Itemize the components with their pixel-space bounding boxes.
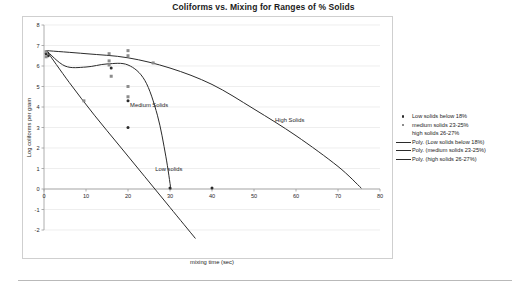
svg-text:-1: -1 <box>35 207 40 213</box>
svg-text:30: 30 <box>167 193 173 199</box>
legend-item: Poly. (medium solids 23-25%) <box>395 146 523 155</box>
svg-text:50: 50 <box>251 193 257 199</box>
legend-item-label: Low solids below 18% <box>411 112 467 121</box>
x-tick-labels: 01020304050607080 <box>42 189 383 199</box>
legend-marker-circle-icon <box>395 115 411 118</box>
svg-text:8: 8 <box>36 22 39 28</box>
legend-item: high solids 26-27% <box>395 129 523 138</box>
svg-text:-2: -2 <box>35 227 40 233</box>
trendline-group <box>47 51 362 239</box>
chart-annotation: Medium Solids <box>130 102 168 108</box>
y-axis-label: Log coliforms per gram <box>26 98 32 157</box>
svg-text:0: 0 <box>36 186 39 192</box>
gridlines <box>44 25 380 230</box>
svg-text:Log coliforms per gram: Log coliforms per gram <box>26 98 32 157</box>
svg-text:40: 40 <box>209 193 215 199</box>
svg-text:3: 3 <box>36 125 39 131</box>
svg-text:80: 80 <box>377 193 383 199</box>
chart-legend: Low solids below 18%medium solids 23-25%… <box>395 112 523 164</box>
svg-text:20: 20 <box>125 193 131 199</box>
svg-text:7: 7 <box>36 43 39 49</box>
chart-annotation: Low solids <box>155 166 182 172</box>
legend-item-label: high solids 26-27% <box>411 129 459 138</box>
svg-text:2: 2 <box>36 145 39 151</box>
legend-trendline-icon <box>395 159 411 160</box>
y-tick-labels: 876543210-1-2 <box>35 22 44 233</box>
svg-text:1: 1 <box>36 166 39 172</box>
legend-trendline-icon <box>395 150 411 151</box>
footer-divider <box>18 280 512 281</box>
legend-item-label: Poly. (high solids 26-27%) <box>411 155 477 164</box>
chart-figure: Coliforms vs. Mixing for Ranges of % Sol… <box>0 0 527 290</box>
legend-item-label: Poly. (medium solids 23-25%) <box>411 146 486 155</box>
svg-text:0: 0 <box>42 193 45 199</box>
svg-text:10: 10 <box>83 193 89 199</box>
legend-item-label: Poly. (Low solids below 18%) <box>411 138 484 147</box>
svg-text:4: 4 <box>36 104 39 110</box>
legend-marker-square-icon <box>395 124 411 127</box>
legend-item-label: medium solids 23-25% <box>411 121 469 130</box>
svg-text:5: 5 <box>36 84 39 90</box>
svg-text:70: 70 <box>335 193 341 199</box>
legend-trendline-icon <box>395 142 411 143</box>
chart-annotation: High Solids <box>275 117 304 123</box>
svg-text:6: 6 <box>36 63 39 69</box>
x-axis-label: mixing time (sec) <box>190 259 234 265</box>
legend-item: Poly. (high solids 26-27%) <box>395 155 523 164</box>
legend-item: Low solids below 18% <box>395 112 523 121</box>
svg-text:mixing time (sec): mixing time (sec) <box>190 259 234 265</box>
legend-item: medium solids 23-25% <box>395 121 523 130</box>
legend-item: Poly. (Low solids below 18%) <box>395 138 523 147</box>
svg-text:60: 60 <box>293 193 299 199</box>
